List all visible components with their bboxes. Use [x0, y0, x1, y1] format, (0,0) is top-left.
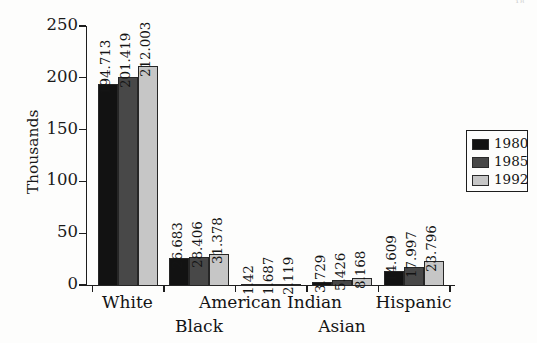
x-category-label-asian: Asian	[262, 316, 422, 336]
legend-item-1985: 1985	[472, 153, 523, 171]
legend-item-1992: 1992	[472, 171, 523, 189]
bar-value-label: 14.609	[383, 235, 399, 282]
x-category-label-hispanic: Hispanic	[334, 292, 494, 312]
bars-layer	[0, 0, 537, 286]
bar-value-label: 5.426	[332, 253, 348, 291]
bar-chart-plot: Thousands 050100150200250 WhiteBlackAmer…	[0, 0, 537, 343]
legend-label: 1992	[494, 173, 528, 187]
bar-value-label: 8.168	[352, 250, 368, 288]
bar-value-label: 26.683	[169, 223, 185, 270]
chart-legend: 198019851992	[466, 130, 528, 192]
x-tick	[306, 285, 307, 292]
x-tick	[163, 285, 164, 292]
legend-label: 1980	[494, 137, 528, 151]
legend-label: 1985	[494, 155, 528, 169]
bar-value-label: 212.003	[137, 22, 153, 77]
legend-swatch-1985	[472, 157, 489, 168]
bar-value-label: 17.997	[403, 232, 419, 279]
x-tick	[92, 285, 93, 292]
bar-value-label: 28.406	[189, 221, 205, 268]
x-tick	[449, 285, 450, 292]
bar-value-label: 2.119	[280, 257, 296, 295]
bar-value-label: 23.796	[423, 226, 439, 273]
bar-value-label: 31.378	[209, 218, 225, 265]
x-category-label-white: White	[48, 292, 208, 312]
bar-value-label: 1.687	[260, 257, 276, 295]
bar-value-label: 194.713	[97, 40, 113, 95]
chart-figure: 18 Thousands 050100150200250 WhiteBlackA…	[0, 0, 537, 343]
bar-value-label: 1.42	[240, 265, 256, 295]
bar-value-label: 201.419	[117, 33, 133, 88]
bar-value-label: 3.729	[312, 255, 328, 293]
x-tick	[235, 285, 236, 292]
bar-white-1992	[138, 66, 158, 286]
x-tick	[378, 285, 379, 292]
x-category-label-american-indian: American Indian	[191, 292, 351, 312]
legend-item-1980: 1980	[472, 135, 523, 153]
bar-white-1980	[98, 84, 118, 286]
legend-swatch-1992	[472, 175, 489, 186]
legend-swatch-1980	[472, 139, 489, 150]
x-category-label-black: Black	[119, 316, 279, 336]
bar-white-1985	[118, 77, 138, 286]
